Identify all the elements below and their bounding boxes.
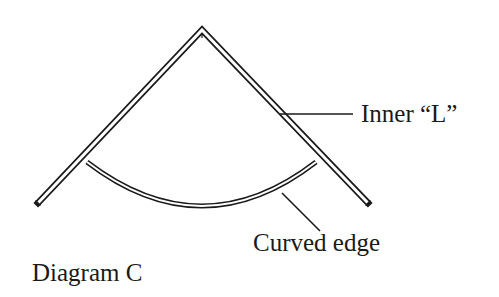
curved-edge-leader-line bbox=[282, 193, 320, 231]
inner-l-label: Inner “L” bbox=[361, 101, 457, 126]
curved-edge-shape bbox=[87, 162, 316, 206]
diagram-c-figure bbox=[0, 0, 499, 297]
inner-l-shape bbox=[36, 30, 371, 206]
curved-edge-label: Curved edge bbox=[253, 230, 380, 255]
diagram-caption: Diagram C bbox=[32, 260, 142, 285]
